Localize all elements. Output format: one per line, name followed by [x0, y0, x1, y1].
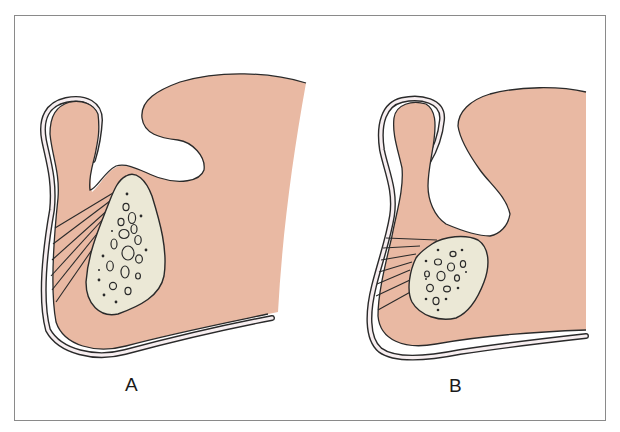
- panel-b-tissue: [378, 88, 586, 346]
- panel-b-drawing: [369, 88, 586, 358]
- panel-a-drawing: [43, 74, 306, 355]
- anatomical-diagram: [0, 0, 620, 432]
- panel-label-b: B: [449, 376, 462, 395]
- panel-a-tissue: [50, 74, 306, 349]
- panel-label-a: A: [125, 375, 138, 394]
